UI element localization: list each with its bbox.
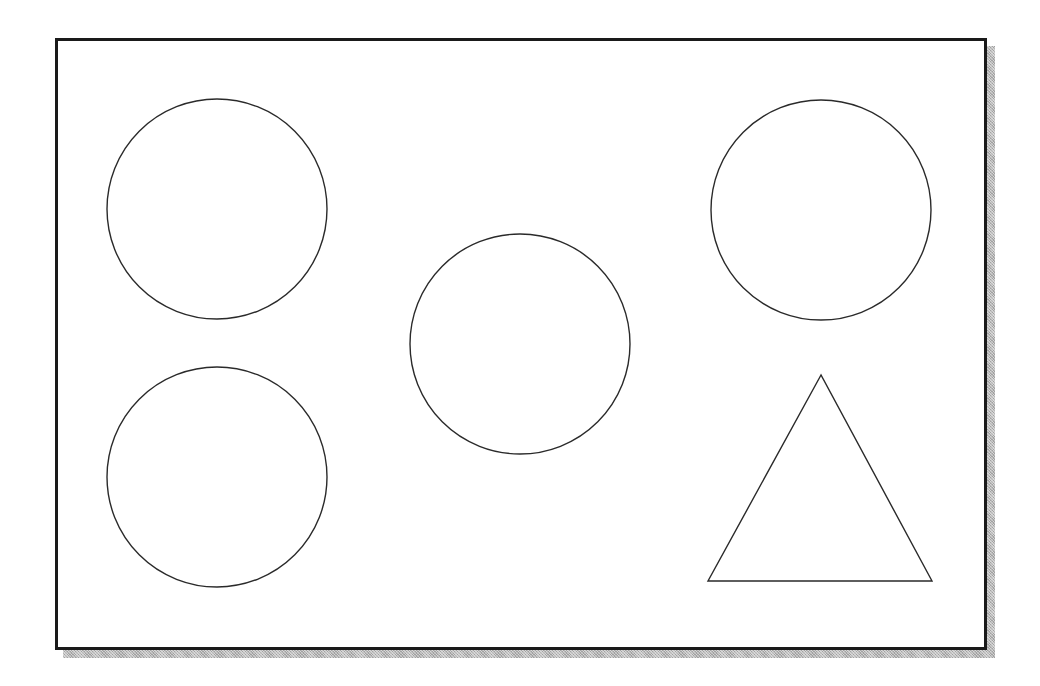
- circle-center: [410, 234, 630, 454]
- circle-top-left: [107, 99, 327, 319]
- diagram-canvas: [0, 0, 1040, 686]
- circle-top-right: [711, 100, 931, 320]
- circle-bottom-left: [107, 367, 327, 587]
